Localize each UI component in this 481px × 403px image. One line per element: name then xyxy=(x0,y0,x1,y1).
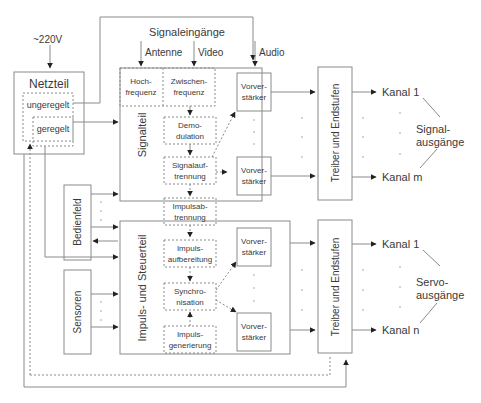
pulse-sep-label-2: trennung xyxy=(174,213,206,222)
signal-preamp-m-label-2: stärker xyxy=(242,177,267,186)
if-label: Zwischen- xyxy=(171,77,208,86)
if-label-2: frequenz xyxy=(173,88,204,97)
demod-label: Demo- xyxy=(178,121,202,130)
diagram-svg: ~220V Netzteil ungeregelt geregelt Signa… xyxy=(0,0,481,403)
gen-label: Impuls- xyxy=(177,330,204,339)
panel-label: Bedienfeld xyxy=(72,198,83,245)
control-preamp-1-label-2: stärker xyxy=(242,248,267,257)
demod-label-2: dulation xyxy=(176,132,204,141)
video-label: Video xyxy=(198,47,224,58)
signal-preamp-1-label: Vorver- xyxy=(241,82,267,91)
regulated-label: geregelt xyxy=(37,124,70,134)
hf-label-2: frequenz xyxy=(125,88,156,97)
signal-preamp-m-box xyxy=(237,157,271,195)
signal-preamp-1-label-2: stärker xyxy=(242,93,267,102)
control-preamp-n-label: Vorver- xyxy=(241,322,267,331)
signal-channel-1: Kanal 1 xyxy=(382,86,419,98)
signal-outputs-label: Signal- xyxy=(416,123,451,135)
hf-label: Hoch- xyxy=(130,77,152,86)
gen-label-2: generierung xyxy=(169,341,212,350)
power-supply-title: Netzteil xyxy=(29,77,69,91)
sync-label: Synchro- xyxy=(174,287,206,296)
pulse-sep-label: Impulsab- xyxy=(172,202,207,211)
prep-label-2: aufbereitung xyxy=(168,255,212,264)
split-label: Signalauf- xyxy=(172,161,208,170)
servo-channel-n: Kanal n xyxy=(382,324,419,336)
sync-label-2: nisation xyxy=(176,298,204,307)
control-section-title: Impuls- und Steuerteil xyxy=(136,235,148,342)
servo-outputs-label-2: ausgänge xyxy=(416,289,464,301)
servo-driver-label: Treiber und Endstufen xyxy=(330,238,341,337)
audio-label: Audio xyxy=(259,47,285,58)
sensors-label: Sensoren xyxy=(72,291,83,334)
unregulated-label: ungeregelt xyxy=(27,100,70,110)
signal-channel-m: Kanal m xyxy=(382,171,422,183)
servo-channel-1: Kanal 1 xyxy=(382,238,419,250)
split-label-2: trennung xyxy=(174,172,206,181)
prep-label: Impuls- xyxy=(177,244,204,253)
antenna-label: Antenne xyxy=(145,47,183,58)
control-preamp-n-box xyxy=(237,313,271,351)
signal-inputs-header: Signaleingänge xyxy=(149,26,225,38)
signal-driver-label: Treiber und Endstufen xyxy=(330,84,341,183)
signal-preamp-1-box xyxy=(237,73,271,111)
signal-section-title: Signalteil xyxy=(136,113,148,158)
signal-preamp-m-label: Vorver- xyxy=(241,166,267,175)
servo-outputs-label: Servo- xyxy=(416,276,449,288)
signal-outputs-label-2: ausgänge xyxy=(416,136,464,148)
block-diagram: ~220V Netzteil ungeregelt geregelt Signa… xyxy=(0,0,481,403)
control-preamp-n-label-2: stärker xyxy=(242,333,267,342)
control-preamp-1-box xyxy=(237,228,271,266)
mains-label: ~220V xyxy=(33,34,63,45)
control-preamp-1-label: Vorver- xyxy=(241,237,267,246)
